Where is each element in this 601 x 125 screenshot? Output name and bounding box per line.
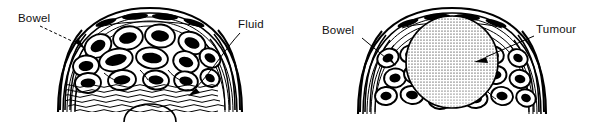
bowel-loop <box>383 67 408 90</box>
label-tumour-text: Tumour <box>536 23 576 35</box>
bowel-loop <box>135 45 170 70</box>
panel-ascites: Bowel Fluid <box>0 0 300 125</box>
panel-tumour: Bowel Tumour <box>300 0 601 125</box>
bowel-loop <box>490 85 515 107</box>
ascites-illustration: Bowel Fluid <box>0 0 300 125</box>
tumour-illustration: Bowel Tumour <box>300 0 601 125</box>
label-fluid-text: Fluid <box>238 18 264 30</box>
bowel-loop <box>144 23 176 49</box>
figure-root: Bowel Fluid <box>0 0 601 125</box>
bowel-loop <box>142 69 170 91</box>
bowel-loop <box>514 86 539 109</box>
label-bowel-text: Bowel <box>322 24 354 36</box>
leader-bowel <box>40 26 74 42</box>
label-bowel-text: Bowel <box>18 12 50 24</box>
